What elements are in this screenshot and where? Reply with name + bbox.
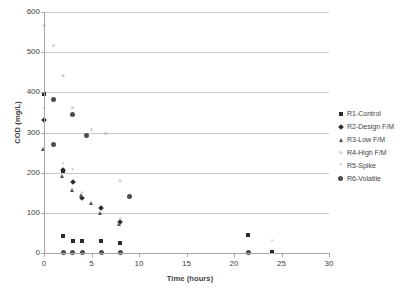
y-tick-label-300: 300: [4, 128, 40, 137]
y-tick-400: [41, 92, 44, 93]
legend-item-r1-control[interactable]: R1-Control: [336, 107, 411, 120]
data-point-circle: [51, 97, 56, 102]
legend-item-r5-spike[interactable]: *R5-Spike: [336, 159, 411, 172]
legend-item-label: R1-Control: [345, 110, 381, 117]
y-tick-label-100: 100: [4, 208, 40, 217]
data-point-x: [70, 105, 76, 111]
data-point-circle: [84, 133, 89, 138]
data-point-star: [269, 239, 275, 245]
data-point-triangle: [70, 188, 74, 192]
legend-marker-triangle-icon: [336, 138, 345, 142]
data-point-square: [246, 233, 250, 237]
x-tick-5: [92, 254, 93, 257]
data-point-star: [79, 191, 85, 197]
y-tick-100: [41, 213, 44, 214]
x-tick-label-20: 20: [219, 259, 249, 268]
legend-item-r4-high-f-m[interactable]: ×R4-High F/M: [336, 146, 411, 159]
gridline-y-200: [44, 173, 329, 174]
cod-vs-time-scatter-chart: COD (mg/L) 0100200300400500600 051015202…: [0, 0, 411, 291]
x-tick-20: [234, 254, 235, 257]
y-tick-300: [41, 133, 44, 134]
x-tick-10: [139, 254, 140, 257]
data-point-triangle: [60, 174, 64, 178]
legend-item-label: R3-Low F/M: [345, 136, 385, 143]
x-tick-label-15: 15: [172, 259, 202, 268]
data-point-circle: [70, 112, 75, 117]
legend-marker-square-icon: [336, 112, 345, 116]
data-point-x: [60, 73, 66, 79]
x-tick-label-0: 0: [29, 259, 59, 268]
gridline-y-400: [44, 92, 329, 93]
legend-marker-x-icon: ×: [336, 149, 345, 156]
data-point-star: [70, 168, 76, 174]
data-point-square: [61, 234, 65, 238]
data-point-square: [71, 239, 75, 243]
legend-item-r3-low-f-m[interactable]: R3-Low F/M: [336, 133, 411, 146]
plot-area: [44, 12, 329, 253]
x-tick-label-30: 30: [314, 259, 344, 268]
y-axis-line: [44, 12, 45, 254]
y-tick-label-500: 500: [4, 47, 40, 56]
legend-item-label: R6-Volatile: [345, 175, 381, 182]
data-point-square: [99, 239, 103, 243]
legend-item-r6-volatile[interactable]: R6-Volatile: [336, 172, 411, 185]
x-tick-label-5: 5: [77, 259, 107, 268]
x-axis-title: Time (hours): [120, 274, 260, 283]
legend-item-label: R5-Spike: [345, 162, 376, 169]
data-point-circle: [51, 142, 56, 147]
legend-item-r2-design-f-m[interactable]: R2-Design F/M: [336, 120, 411, 133]
legend-item-label: R4-High F/M: [345, 149, 387, 156]
data-point-star: [117, 217, 123, 223]
x-tick-label-25: 25: [267, 259, 297, 268]
y-axis-tick-labels: 0100200300400500600: [0, 0, 40, 291]
y-tick-200: [41, 173, 44, 174]
legend-marker-diamond-icon: [336, 125, 345, 129]
gridline-y-500: [44, 52, 329, 53]
data-point-diamond: [70, 179, 76, 185]
data-point-square: [80, 239, 84, 243]
y-tick-label-200: 200: [4, 168, 40, 177]
y-tick-label-400: 400: [4, 87, 40, 96]
x-tick-0: [44, 254, 45, 257]
legend-item-label: R2-Design F/M: [345, 123, 394, 130]
data-point-x: [51, 43, 57, 49]
x-tick-25: [282, 254, 283, 257]
gridline-y-600: [44, 12, 329, 13]
data-point-square: [118, 241, 122, 245]
legend-marker-star-icon: *: [336, 162, 345, 169]
data-point-triangle: [89, 201, 93, 205]
y-tick-500: [41, 52, 44, 53]
y-tick-label-0: 0: [4, 248, 40, 257]
x-tick-15: [187, 254, 188, 257]
data-point-circle: [127, 194, 132, 199]
data-point-star: [60, 162, 66, 168]
data-point-x: [103, 131, 109, 137]
legend-marker-circle-icon: [336, 176, 345, 181]
x-tick-label-10: 10: [124, 259, 154, 268]
y-tick-label-600: 600: [4, 7, 40, 16]
x-tick-30: [329, 254, 330, 257]
chart-legend: R1-ControlR2-Design F/MR3-Low F/M×R4-Hig…: [336, 107, 411, 185]
gridline-y-100: [44, 213, 329, 214]
data-point-diamond: [98, 205, 104, 211]
data-point-x: [117, 178, 123, 184]
data-point-triangle: [98, 211, 102, 215]
y-tick-600: [41, 12, 44, 13]
data-point-x: [89, 127, 95, 133]
